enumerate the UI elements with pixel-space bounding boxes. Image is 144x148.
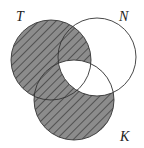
set-n-label: N: [119, 10, 128, 24]
set-k-label: K: [120, 130, 129, 144]
set-t-label: T: [16, 10, 24, 24]
venn-diagram: T N K: [0, 0, 144, 148]
